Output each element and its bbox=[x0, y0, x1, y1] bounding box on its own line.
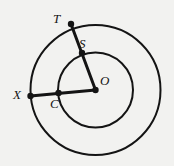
segment-OX bbox=[31, 90, 96, 96]
point-label-X: X bbox=[13, 88, 21, 101]
geometry-diagram: T S O X C bbox=[0, 0, 174, 166]
point-label-S: S bbox=[79, 37, 86, 50]
point-label-O: O bbox=[100, 74, 109, 87]
point-label-C: C bbox=[50, 97, 59, 110]
point-X-dot bbox=[27, 93, 33, 99]
point-label-T: T bbox=[53, 12, 60, 25]
concentric-circles-svg bbox=[0, 0, 174, 166]
point-T-dot bbox=[68, 21, 74, 27]
point-O-dot bbox=[92, 87, 98, 93]
segment-OT bbox=[71, 24, 96, 90]
